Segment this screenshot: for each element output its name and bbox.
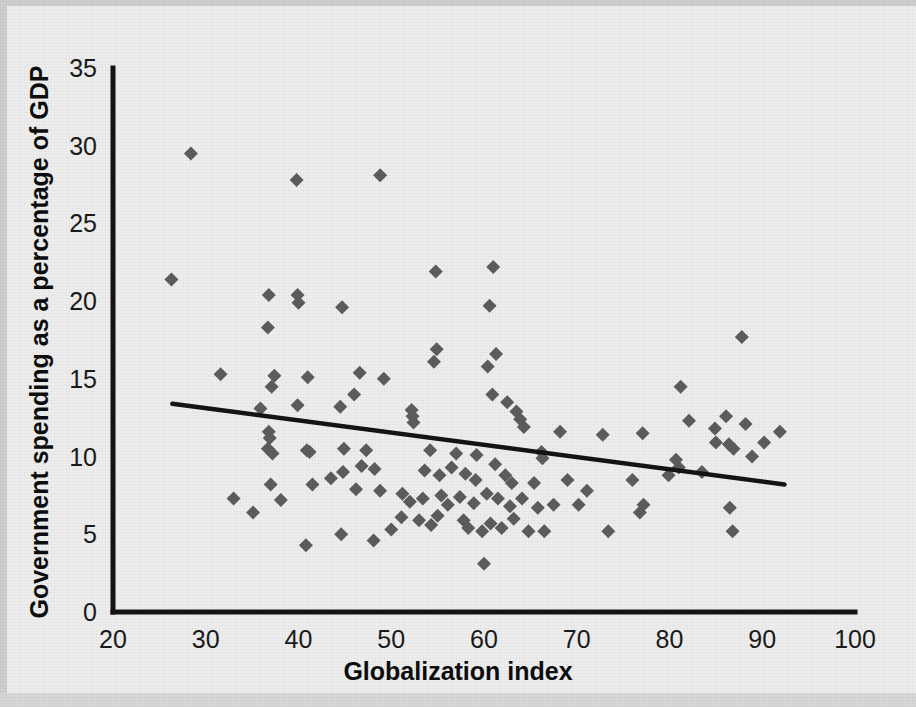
data-point [291,398,305,412]
data-point [355,459,369,473]
scatter-plot [0,0,916,707]
data-point [264,478,278,492]
x-tick-label: 100 [834,625,876,654]
data-point [164,272,178,286]
data-point [227,492,241,506]
y-axis-title: Government spending as a percentage of G… [25,79,54,619]
data-point [337,442,351,456]
data-point [522,524,536,538]
data-point [359,443,373,457]
x-tick-label: 80 [656,625,684,654]
data-point [735,330,749,344]
data-point [367,534,381,548]
data-point [427,355,441,369]
data-point [745,450,759,464]
y-tick-label: 15 [51,364,97,393]
data-point [274,493,288,507]
y-tick-label: 10 [51,442,97,471]
data-point [262,288,276,302]
data-point [301,370,315,384]
data-point [674,380,688,394]
data-point [723,501,737,515]
data-point [353,366,367,380]
data-point [324,471,338,485]
data-point [572,498,586,512]
x-axis-title: Globalization index [0,657,916,686]
x-tick-label: 90 [748,625,776,654]
data-point [470,448,484,462]
x-tick-label: 60 [470,625,498,654]
data-point [485,387,499,401]
data-point [336,465,350,479]
trend-line [172,404,784,485]
data-point [709,436,723,450]
chart-figure: 2030405060708090100 05101520253035 Globa… [0,0,916,707]
data-point [553,425,567,439]
data-point [477,557,491,571]
data-point [757,436,771,450]
data-point [453,490,467,504]
data-point [412,513,426,527]
data-point [430,342,444,356]
data-point [445,460,459,474]
x-tick-label: 70 [563,625,591,654]
data-point [184,146,198,160]
y-tick-label: 35 [51,54,97,83]
data-point [481,359,495,373]
data-point [373,484,387,498]
data-point [719,409,733,423]
data-point [214,367,228,381]
data-point [547,498,561,512]
data-point [449,446,463,460]
data-point [596,428,610,442]
data-point [429,265,443,279]
data-point [726,524,740,538]
data-point [580,484,594,498]
data-point [290,173,304,187]
y-tick-label: 5 [51,520,97,549]
data-point [349,482,363,496]
data-point [503,499,517,513]
data-point [334,527,348,541]
data-point [265,380,279,394]
data-point [708,422,722,436]
data-point [333,400,347,414]
data-point [601,524,615,538]
data-point [739,417,753,431]
data-point [682,414,696,428]
y-tick-label: 30 [51,131,97,160]
data-point [377,372,391,386]
data-point [305,478,319,492]
data-point [488,457,502,471]
y-tick-label: 0 [51,598,97,627]
data-point [486,260,500,274]
data-point [261,321,275,335]
data-point [489,347,503,361]
x-tick-label: 30 [192,625,220,654]
data-points-group [164,146,786,570]
data-point [500,395,514,409]
x-tick-label: 40 [285,625,313,654]
data-point [246,506,260,520]
data-point [483,299,497,313]
data-point [527,476,541,490]
data-point [467,496,481,510]
data-point [423,443,437,457]
data-point [636,426,650,440]
data-point [299,538,313,552]
data-point [394,510,408,524]
data-point [384,523,398,537]
data-point [347,387,361,401]
data-point [537,524,551,538]
data-point [416,492,430,506]
data-point [267,369,281,383]
data-point [373,168,387,182]
data-point [507,512,521,526]
data-point [335,300,349,314]
page-edge-top [0,0,916,6]
y-tick-label: 20 [51,287,97,316]
page-edge-left [0,0,7,707]
page-edge-bottom [0,693,916,707]
y-tick-label: 25 [51,209,97,238]
data-point [515,492,529,506]
